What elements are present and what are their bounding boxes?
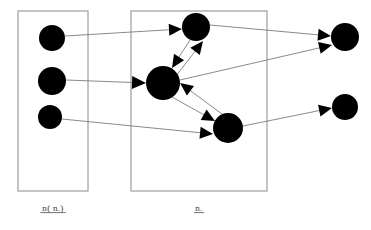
edge-L2-to-M2 [66,80,133,83]
nodes-layer [38,13,359,143]
edge-M2-to-M3 [172,97,205,115]
arrowhead-icon-L1-to-M1 [169,24,182,36]
graph-node-R1[interactable] [331,23,359,51]
arrowhead-icon-M1-to-M2 [172,54,184,68]
group-label-group-middle: n. [195,203,202,213]
graph-node-R2[interactable] [332,94,358,120]
edge-M3-to-M2 [190,90,222,114]
graph-node-L2[interactable] [38,67,66,95]
arrowhead-icon-L2-to-M2 [132,76,146,89]
graph-node-M1[interactable] [182,13,210,41]
group-labels-layer: n( n.)n. [40,203,204,213]
arrowhead-icon-M3-to-M2 [180,83,194,96]
diagram-canvas: n( n.)n. [0,0,371,230]
arrowhead-icon-L3-to-M3 [199,127,213,139]
graph-node-M3[interactable] [213,113,243,143]
arrowhead-icon-M1-to-R1 [318,29,331,41]
edge-M1-to-M2 [178,40,190,58]
graph-diagram: n( n.)n. [0,0,371,230]
graph-node-L3[interactable] [38,105,62,129]
edge-L1-to-M1 [65,30,170,36]
edges-layer [62,24,332,139]
graph-node-M2[interactable] [146,66,180,100]
arrowhead-icon-M2-to-R1 [318,42,332,54]
edge-M1-to-R1 [210,25,319,35]
edge-M3-to-R2 [243,110,320,126]
arrowhead-icon-M2-to-M1 [190,41,203,55]
edge-L3-to-M3 [62,119,201,133]
edge-M2-to-R1 [180,48,320,80]
arrowhead-icon-M2-to-M3 [201,109,215,121]
group-label-group-left: n( n.) [42,203,63,213]
graph-node-L1[interactable] [39,25,65,51]
arrowhead-icon-M3-to-R2 [318,105,332,117]
